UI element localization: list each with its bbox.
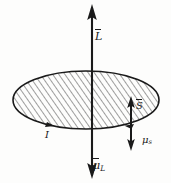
angular-momentum-label: L: [95, 31, 102, 42]
spin-magnetic-moment-label: μs: [142, 135, 152, 146]
physics-diagram: L μL S μs I: [0, 0, 171, 183]
spin-moment-subscript: s: [149, 138, 153, 146]
orbital-moment-subscript: L: [100, 164, 105, 173]
current-label: I: [45, 130, 49, 140]
orbital-magnetic-moment-label: μL: [93, 160, 105, 172]
diagram-canvas: [0, 0, 171, 183]
spin-label: S: [136, 101, 143, 111]
